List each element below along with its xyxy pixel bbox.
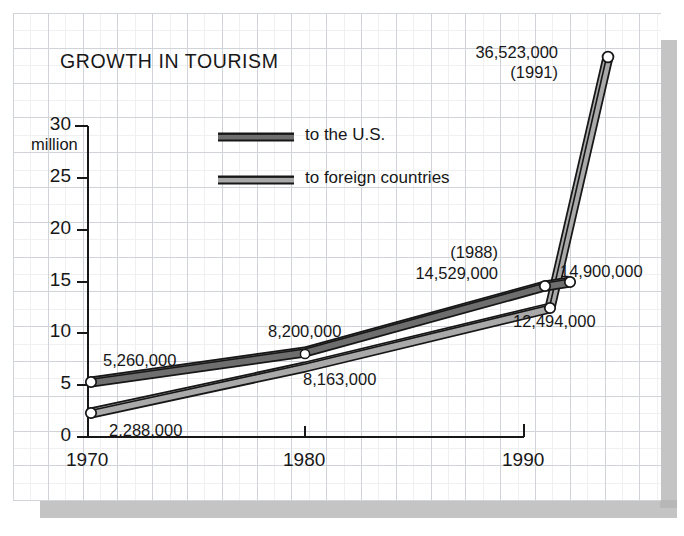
legend-swatch-to-the-us <box>218 134 294 137</box>
y-tick-10: 10 <box>27 321 71 341</box>
value-label-5260000: 5,260,000 <box>103 352 176 369</box>
x-tick-1970: 1970 <box>66 450 108 470</box>
year-label-1988: (1988) <box>368 244 498 261</box>
legend-swatch-to-foreign-countries <box>218 177 294 180</box>
card-shadow-bottom <box>40 500 677 518</box>
y-tick-0: 0 <box>27 425 71 445</box>
chart-screenshot: GROWTH IN TOURISM 30 million 25 20 15 10… <box>0 0 684 536</box>
y-tick-20: 20 <box>27 218 71 238</box>
card-shadow-right <box>660 40 677 508</box>
chart-card: GROWTH IN TOURISM 30 million 25 20 15 10… <box>13 13 661 501</box>
plot-area: GROWTH IN TOURISM 30 million 25 20 15 10… <box>13 13 661 501</box>
x-tick-1980: 1980 <box>283 450 325 470</box>
value-label-36523000: 36,523,000 <box>398 44 558 61</box>
value-label-8200000: 8,200,000 <box>268 323 341 340</box>
value-label-12494000: 12,494,000 <box>513 313 596 330</box>
y-axis-unit-label: million <box>31 136 78 153</box>
value-label-8163000: 8,163,000 <box>303 371 376 388</box>
value-label-2288000: 2,288,000 <box>109 422 182 439</box>
y-tick-25: 25 <box>27 166 71 186</box>
y-tick-15: 15 <box>27 270 71 290</box>
x-tick-1990: 1990 <box>502 450 544 470</box>
y-tick-5: 5 <box>27 373 71 393</box>
year-label-1991: (1991) <box>398 64 558 81</box>
y-tick-30: 30 <box>27 114 71 134</box>
legend-label-to-foreign-countries: to foreign countries <box>305 169 450 187</box>
chart-title: GROWTH IN TOURISM <box>60 51 279 71</box>
value-label-14529000: 14,529,000 <box>368 265 498 282</box>
value-label-14900000: 14,900,000 <box>560 263 643 280</box>
legend-label-to-the-us: to the U.S. <box>305 126 385 144</box>
